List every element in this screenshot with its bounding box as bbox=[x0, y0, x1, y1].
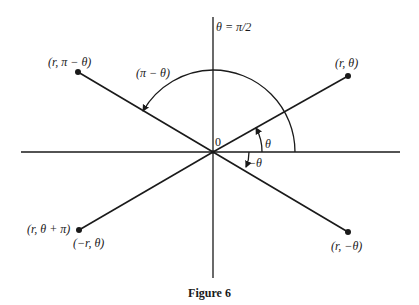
label-r-theta: (r, θ) bbox=[335, 57, 358, 69]
polar-coordinates-diagram bbox=[0, 0, 419, 305]
ray-r-theta-plus-pi bbox=[79, 152, 213, 230]
origin-label: 0 bbox=[215, 136, 221, 148]
figure-caption: Figure 6 bbox=[0, 286, 419, 301]
label-angle-theta: θ bbox=[265, 138, 271, 150]
ray-r-pi-minus-theta bbox=[78, 72, 213, 152]
point-r-theta-plus-pi bbox=[76, 227, 82, 233]
label-angle-neg-theta: −θ bbox=[248, 157, 262, 169]
ray-r-theta bbox=[213, 76, 348, 152]
point-r-theta bbox=[345, 73, 351, 79]
label-r-neg-theta: (r, −θ) bbox=[331, 240, 362, 252]
arc-theta bbox=[256, 128, 262, 152]
label-r-theta-plus-pi: (r, θ + π) bbox=[27, 223, 70, 235]
point-r-pi-minus-theta bbox=[75, 69, 81, 75]
axis-label-theta-pi-over-2: θ = π/2 bbox=[216, 21, 251, 33]
label-angle-pi-minus-theta: (π − θ) bbox=[136, 67, 170, 79]
origin-point bbox=[211, 150, 215, 154]
label-neg-r-theta: (−r, θ) bbox=[73, 237, 104, 249]
label-r-pi-minus-theta: (r, π − θ) bbox=[48, 56, 91, 68]
ray-r-neg-theta bbox=[213, 152, 348, 232]
point-r-neg-theta bbox=[345, 229, 351, 235]
